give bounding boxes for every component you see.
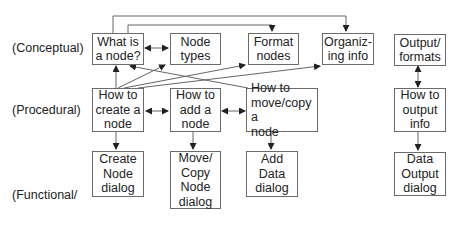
node-text: node <box>93 117 143 132</box>
node-how-to-move-copy: How to move/copy a node <box>246 88 318 132</box>
node-text: dialog <box>93 181 143 196</box>
node-text: Node <box>93 167 143 182</box>
node-text: Output <box>395 167 445 182</box>
node-text: Data <box>395 152 445 167</box>
node-text: Add <box>247 152 297 167</box>
row-label-procedural: (Procedural) <box>12 103 81 118</box>
node-text: Move/ <box>171 151 220 166</box>
node-text: Copy <box>171 166 220 181</box>
node-node-types: Node types <box>170 33 221 65</box>
node-output-formats: Output/ formats <box>394 34 446 66</box>
node-text: create a <box>93 103 143 118</box>
node-format-nodes: Format nodes <box>248 33 299 65</box>
node-text: Organiz- <box>323 35 373 50</box>
node-text: types <box>171 49 220 64</box>
node-text: move/copy a <box>251 96 317 125</box>
node-data-output-dialog: Data Output dialog <box>394 152 446 196</box>
edge-what-to-format <box>128 25 272 33</box>
node-organizing-info: Organiz- ing info <box>322 33 374 65</box>
node-text: Node <box>171 35 220 50</box>
row-label-functional-line1: (Functional/ <box>12 188 77 203</box>
node-text: dialog <box>247 181 297 196</box>
node-text: nodes <box>249 49 298 64</box>
node-text: How to <box>171 88 220 103</box>
node-text: a node? <box>93 49 143 64</box>
node-text: dialog <box>171 195 220 210</box>
node-text: How to <box>251 81 317 96</box>
row-label-functional: (Functional/ field help) <box>12 158 77 217</box>
node-text: What is <box>93 35 143 50</box>
node-text: output <box>395 103 445 118</box>
node-text: dialog <box>395 181 445 196</box>
node-create-node-dialog: Create Node dialog <box>92 151 144 197</box>
node-move-copy-dialog: Move/ Copy Node dialog <box>170 151 221 209</box>
node-text: add a <box>171 103 220 118</box>
node-text: Output/ <box>395 36 445 51</box>
node-text: formats <box>395 50 445 65</box>
node-add-data-dialog: Add Data dialog <box>246 151 298 197</box>
row-label-conceptual: (Conceptual) <box>12 41 84 56</box>
node-text: info <box>395 117 445 132</box>
node-how-to-output: How to output info <box>394 88 446 132</box>
node-what-is-a-node: What is a node? <box>92 33 144 65</box>
node-how-to-create: How to create a node <box>92 88 144 132</box>
node-text: Data <box>247 167 297 182</box>
node-text: node <box>171 117 220 132</box>
node-text: node <box>251 125 317 140</box>
node-text: Format <box>249 35 298 50</box>
node-text: ing info <box>323 49 373 64</box>
node-text: Create <box>93 152 143 167</box>
node-text: Node <box>171 180 220 195</box>
node-how-to-add: How to add a node <box>170 88 221 132</box>
node-text: How to <box>93 88 143 103</box>
node-text: How to <box>395 88 445 103</box>
